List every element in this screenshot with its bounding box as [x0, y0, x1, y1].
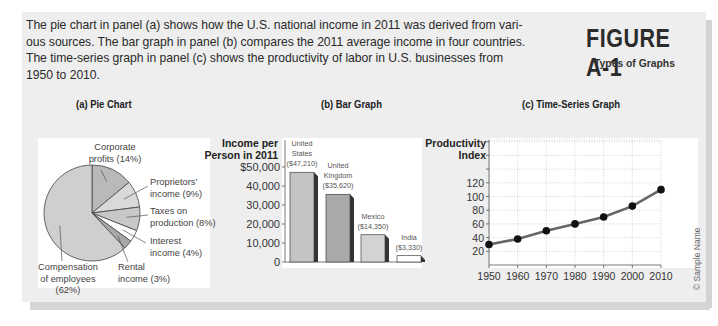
photo-credit: © Sample Name	[692, 228, 702, 290]
x-tick-label: 2010	[649, 270, 673, 282]
x-tick-label: 1990	[592, 270, 616, 282]
y-tick-label: 60	[472, 218, 484, 230]
time-series-chart: ProductivityIndex12010080604020195019601…	[0, 0, 718, 326]
y-tick-label: 80	[472, 204, 484, 216]
data-point	[600, 213, 608, 221]
x-tick-label: 1950	[477, 270, 501, 282]
data-point	[629, 202, 637, 210]
y-tick-label: 20	[472, 245, 484, 257]
data-point	[514, 235, 522, 243]
data-point	[571, 220, 579, 228]
y-axis-label: Index	[459, 149, 487, 161]
data-point	[485, 241, 493, 249]
y-tick-label: 40	[472, 232, 484, 244]
x-tick-label: 2000	[621, 270, 645, 282]
x-tick-label: 1960	[506, 270, 530, 282]
data-point	[543, 227, 551, 235]
data-point	[657, 186, 665, 194]
x-tick-label: 1970	[535, 270, 559, 282]
y-axis-label: Productivity	[425, 137, 486, 149]
x-tick-label: 1980	[563, 270, 587, 282]
y-tick-label: 120	[466, 177, 484, 189]
y-tick-label: 100	[466, 191, 484, 203]
